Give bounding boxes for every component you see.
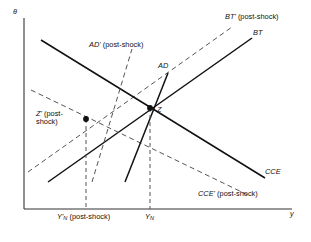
curve-label-ad-prime: AD' (post-shock) — [89, 41, 143, 49]
x-axis-label: y — [290, 210, 294, 218]
x-tick-y-n-sub: N — [150, 215, 154, 221]
curve-label-bt-prime-name: BT' — [225, 12, 236, 21]
curve-ad — [125, 73, 168, 182]
curve-label-cce-prime-name: CCE' — [198, 189, 215, 198]
point-z — [147, 105, 153, 111]
point-z-prime — [83, 116, 89, 122]
curve-label-cce-prime-suffix: (post-shock) — [215, 189, 258, 198]
curve-label-ad-prime-name: AD' — [89, 40, 101, 49]
x-tick-label-y-n: YN — [145, 213, 154, 222]
curve-label-ad: AD — [158, 62, 168, 70]
x-tick-y-n-prime-suffix: (post-shock) — [67, 212, 110, 221]
point-label-z-prime: Z' (post-shock) — [36, 110, 78, 127]
curve-label-bt: BT — [253, 29, 262, 37]
point-label-z: Z — [157, 106, 162, 114]
y-axis-label: θ — [13, 8, 17, 16]
x-tick-label-y-n-prime: Y'N (post-shock) — [57, 213, 110, 222]
curve-label-cce-prime: CCE' (post-shock) — [198, 190, 258, 198]
curve-label-ad-prime-suffix: (post-shock) — [101, 40, 144, 49]
curve-ad-prime — [92, 49, 132, 182]
economics-diagram: θ y BT' (post-shock) BT AD' (post-shock)… — [0, 0, 311, 242]
curve-label-bt-prime: BT' (post-shock) — [225, 13, 279, 21]
curve-label-cce: CCE — [265, 168, 281, 176]
curve-label-bt-prime-suffix: (post-shock) — [236, 12, 279, 21]
